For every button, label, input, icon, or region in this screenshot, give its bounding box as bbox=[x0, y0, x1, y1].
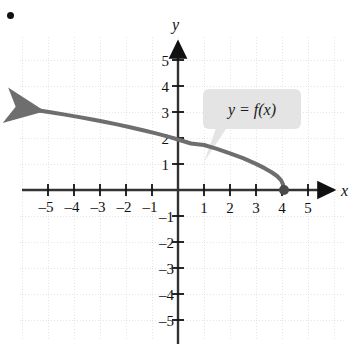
graph-figure: x y –5 –4 –3 –2 –1 bbox=[0, 0, 354, 349]
y-tick-label: –3 bbox=[158, 261, 174, 277]
y-tick-label: 1 bbox=[162, 157, 170, 173]
function-callout: y = f(x) bbox=[203, 89, 301, 129]
x-tick-label: –2 bbox=[116, 199, 132, 215]
x-tick-label: –3 bbox=[90, 199, 106, 215]
y-tick-label: –1 bbox=[158, 209, 174, 225]
x-tick-label: –5 bbox=[38, 199, 54, 215]
y-tick-label: –4 bbox=[158, 287, 175, 303]
y-tick-label: 5 bbox=[162, 53, 170, 69]
x-tick-label: 5 bbox=[304, 200, 312, 216]
x-tick-label: –1 bbox=[142, 199, 158, 215]
curve-endpoint-dot bbox=[279, 185, 289, 195]
callout-label: y = f(x) bbox=[226, 101, 276, 119]
x-tick-label: 2 bbox=[226, 200, 234, 216]
x-tick-label: –4 bbox=[64, 199, 81, 215]
y-tick-label: 4 bbox=[162, 79, 170, 95]
x-tick-label: 3 bbox=[252, 200, 260, 216]
x-tick-label: 1 bbox=[200, 200, 208, 216]
y-tick-label: 3 bbox=[162, 105, 170, 121]
y-axis-label: y bbox=[170, 16, 180, 34]
y-tick-label: –5 bbox=[158, 313, 174, 329]
coordinate-plane-svg: x y –5 –4 –3 –2 –1 bbox=[0, 0, 354, 349]
y-tick-label: –2 bbox=[158, 235, 174, 251]
x-axis-label: x bbox=[340, 182, 348, 199]
x-tick-label: 4 bbox=[278, 200, 286, 216]
